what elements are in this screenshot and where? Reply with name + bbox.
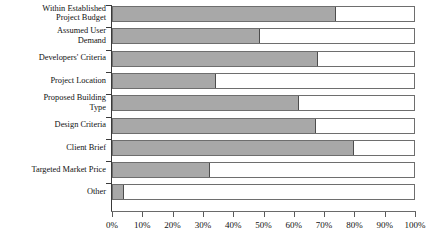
x-axis-tick — [354, 212, 355, 217]
bar-row — [112, 6, 415, 22]
y-axis-line — [111, 5, 112, 211]
bar-row — [112, 51, 415, 67]
category-label: Design Criteria — [0, 120, 106, 130]
bar-row — [112, 73, 415, 89]
y-axis-tick — [106, 5, 112, 6]
y-axis-tick — [106, 161, 112, 162]
x-axis-tick-label: 30% — [195, 220, 212, 231]
category-label: Project Location — [0, 76, 106, 86]
y-axis-tick — [106, 27, 112, 28]
x-axis-tick — [294, 212, 295, 217]
category-label: Proposed Building Type — [0, 93, 106, 112]
category-label: Other — [0, 187, 106, 197]
bar-segment-filled — [113, 29, 260, 43]
bar-row — [112, 140, 415, 156]
x-axis-tick — [203, 212, 204, 217]
x-axis-tick-label: 40% — [225, 220, 242, 231]
bar-row — [112, 184, 415, 200]
bar-segment-filled — [113, 74, 216, 88]
bar-segment-filled — [113, 141, 354, 155]
bar-segment-filled — [113, 163, 210, 177]
category-label: Targeted Market Price — [0, 165, 106, 175]
x-axis-tick-label: 20% — [164, 220, 181, 231]
y-axis-tick — [106, 139, 112, 140]
x-axis-tick — [142, 212, 143, 217]
x-axis-tick — [385, 212, 386, 217]
bar-row — [112, 95, 415, 111]
x-axis-tick — [233, 212, 234, 217]
bar-row — [112, 118, 415, 134]
x-axis-tick-label: 50% — [255, 220, 272, 231]
category-label: Client Brief — [0, 143, 106, 153]
category-label: Developers' Criteria — [0, 53, 106, 63]
bar-segment-filled — [113, 96, 299, 110]
x-axis-tick-label: 70% — [316, 220, 333, 231]
x-axis-tick-label: 90% — [376, 220, 393, 231]
bar-segment-filled — [113, 119, 316, 133]
x-axis-tick — [264, 212, 265, 217]
x-axis-tick-label: 0% — [106, 220, 118, 231]
x-axis-tick-label: 100% — [405, 220, 426, 231]
y-axis-tick — [106, 94, 112, 95]
bar-segment-filled — [113, 7, 336, 21]
x-axis-tick-label: 10% — [134, 220, 151, 231]
bar-segment-filled — [113, 52, 318, 66]
x-axis-tick — [112, 212, 113, 217]
plot-area — [112, 6, 415, 209]
x-axis-tick-label: 60% — [286, 220, 303, 231]
bar-segment-filled — [113, 185, 124, 199]
x-axis-tick — [324, 212, 325, 217]
horizontal-stacked-bar-chart: Within Established Project BudgetAssumed… — [0, 0, 443, 247]
x-axis-tick-label: 80% — [346, 220, 363, 231]
category-label: Assumed User Demand — [0, 26, 106, 45]
category-label: Within Established Project Budget — [0, 4, 106, 23]
bar-row — [112, 28, 415, 44]
y-axis-tick — [106, 117, 112, 118]
x-axis-tick — [173, 212, 174, 217]
x-axis-tick — [415, 212, 416, 217]
y-axis-tick — [106, 50, 112, 51]
y-axis-tick — [106, 183, 112, 184]
y-axis-tick — [106, 72, 112, 73]
bar-row — [112, 162, 415, 178]
